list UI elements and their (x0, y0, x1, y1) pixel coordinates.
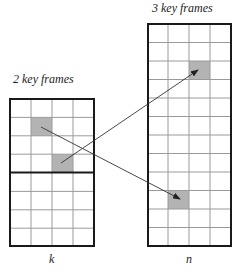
diagram-canvas (0, 0, 239, 275)
left-frame-grid (10, 99, 94, 246)
right-highlight-cell-1 (189, 61, 210, 80)
right-frame-grid (148, 24, 231, 246)
left-highlight-cell-1 (31, 117, 52, 135)
right-highlight-cell-2 (168, 191, 189, 210)
